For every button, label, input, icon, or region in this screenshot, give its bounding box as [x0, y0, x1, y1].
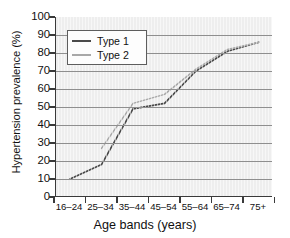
x-tick-label: 35–44	[119, 201, 146, 212]
y-tick-mark	[49, 106, 55, 108]
legend-label-type-1: Type 1	[97, 36, 129, 47]
y-tick-mark	[49, 70, 55, 72]
y-tick-label: 30	[26, 137, 50, 148]
y-tick-mark	[49, 142, 55, 144]
legend-item-type-2: Type 2	[72, 48, 146, 62]
x-tick-mark	[179, 197, 180, 203]
x-axis-title: Age bands (years)	[0, 218, 290, 232]
y-tick-label: 0	[26, 191, 50, 202]
x-tick-label: 16–24	[56, 201, 83, 212]
gridline	[56, 143, 272, 144]
hypertension-prevalence-line-chart: Hypertension prevalence (%) 010203040506…	[0, 0, 290, 238]
x-tick-mark	[274, 197, 275, 203]
gridline	[56, 107, 272, 108]
x-tick-mark	[211, 197, 212, 203]
y-axis-title: Hypertension prevalence (%)	[10, 17, 22, 187]
legend-label-type-2: Type 2	[97, 50, 129, 61]
y-tick-label: 100	[26, 11, 50, 22]
legend-swatch-type-2	[72, 54, 91, 56]
x-tick-label: 25–34	[87, 201, 114, 212]
gridline	[56, 125, 272, 126]
legend-swatch-type-1	[72, 40, 91, 42]
gridline	[56, 161, 272, 162]
y-tick-label: 20	[26, 155, 50, 166]
y-tick-mark	[49, 124, 55, 126]
y-tick-label: 10	[26, 173, 50, 184]
y-tick-mark	[49, 16, 55, 18]
x-tick-label: 45–54	[150, 201, 177, 212]
x-tick-label: 55–64	[182, 201, 209, 212]
y-tick-mark	[49, 34, 55, 36]
chart-legend: Type 1 Type 2	[67, 30, 147, 65]
gridline	[56, 179, 272, 180]
y-tick-label: 90	[26, 29, 50, 40]
y-tick-label: 80	[26, 47, 50, 58]
y-tick-mark	[49, 52, 55, 54]
y-axis-tick-labels: 0102030405060708090100	[24, 0, 50, 238]
y-tick-mark	[49, 160, 55, 162]
y-tick-label: 60	[26, 83, 50, 94]
x-tick-label: 65–74	[213, 201, 240, 212]
y-tick-label: 70	[26, 65, 50, 76]
gridline	[56, 89, 272, 90]
gridline	[56, 71, 272, 72]
y-tick-label: 40	[26, 119, 50, 130]
y-tick-mark	[49, 178, 55, 180]
x-tick-mark	[53, 197, 54, 203]
y-tick-mark	[49, 88, 55, 90]
x-tick-label: 75+	[250, 201, 266, 212]
x-tick-mark	[148, 197, 149, 203]
x-tick-mark	[116, 197, 117, 203]
x-tick-mark	[242, 197, 243, 203]
y-tick-label: 50	[26, 101, 50, 112]
x-tick-mark	[85, 197, 86, 203]
legend-item-type-1: Type 1	[72, 34, 146, 48]
